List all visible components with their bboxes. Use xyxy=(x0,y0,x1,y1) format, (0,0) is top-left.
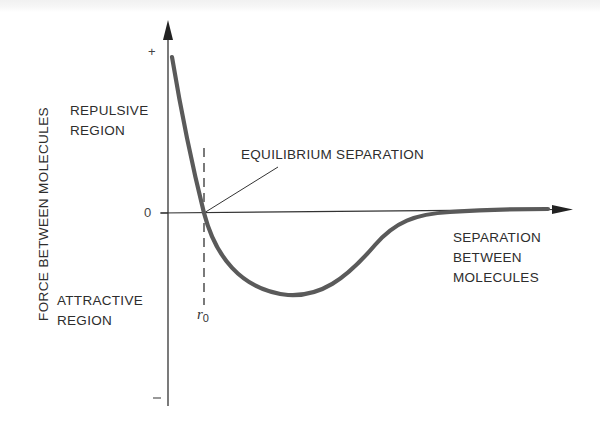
r0-subscript: 0 xyxy=(203,312,209,324)
x-axis-arrow-icon xyxy=(552,205,573,214)
y-axis-arrow-icon xyxy=(163,20,173,40)
force-diagram xyxy=(0,0,600,421)
attractive-region-label: ATTRACTIVE REGION xyxy=(57,291,143,331)
attractive-line-2: REGION xyxy=(57,311,143,331)
attractive-line-1: ATTRACTIVE xyxy=(57,291,143,311)
x-label-line-3: MOLECULES xyxy=(453,268,541,288)
repulsive-line-1: REPULSIVE xyxy=(70,101,148,121)
y-tick-plus: + xyxy=(148,45,156,59)
y-axis-label: FORCE BETWEEN MOLECULES xyxy=(36,107,51,321)
x-label-line-1: SEPARATION xyxy=(453,228,541,248)
equilibrium-leader-line xyxy=(204,167,278,213)
repulsive-line-2: REGION xyxy=(70,121,148,141)
r0-label: r0 xyxy=(197,306,209,324)
x-axis-label: SEPARATION BETWEEN MOLECULES xyxy=(453,228,541,288)
equilibrium-separation-label: EQUILIBRIUM SEPARATION xyxy=(241,145,424,165)
x-label-line-2: BETWEEN xyxy=(453,248,541,268)
y-tick-zero: 0 xyxy=(144,206,151,220)
repulsive-region-label: REPULSIVE REGION xyxy=(70,101,148,141)
